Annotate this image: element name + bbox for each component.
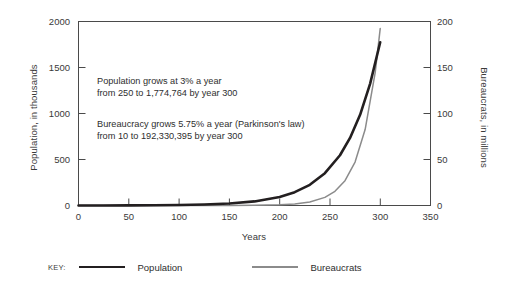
y-left-tick-500: 500 [30,154,70,165]
annotation-population-line1: Population grows at 3% a year [97,76,237,88]
x-tick-50: 50 [109,211,149,222]
x-tick-250: 250 [310,211,350,222]
x-tick-150: 150 [209,211,249,222]
chart-legend: KEY: Population Bureaucrats [48,256,468,278]
x-axis-title: Years [78,231,430,242]
y-right-ticks [424,22,431,206]
legend-label-bureaucrats: Bureaucrats [310,262,361,273]
y-right-tick-50: 50 [437,154,477,165]
y-right-tick-100: 100 [437,108,477,119]
y-right-tick-150: 150 [437,62,477,73]
x-tick-100: 100 [159,211,199,222]
legend-key-label: KEY: [48,263,65,272]
legend-label-population: Population [137,262,182,273]
x-tick-300: 300 [360,211,400,222]
legend-swatch-population-icon [79,266,125,269]
series-line-bureaucrats [79,29,381,206]
annotation-population-line2: from 250 to 1,774,764 by year 300 [97,88,237,100]
annotation-bureaucracy: Bureaucracy grows 5.75% a year (Parkinso… [97,119,305,142]
legend-entry-population: Population [79,262,182,273]
chart-plot-area [0,0,505,289]
y-right-tick-200: 200 [437,16,477,27]
chart-figure: Population, in thousands Bureaucrats, in… [0,0,505,289]
x-tick-350: 350 [411,211,451,222]
y-left-tick-1500: 1500 [30,62,70,73]
annotation-population: Population grows at 3% a year from 250 t… [97,76,237,99]
legend-entry-bureaucrats: Bureaucrats [252,262,361,273]
x-tick-0: 0 [59,211,99,222]
y-left-tick-0: 0 [30,200,70,211]
y-axis-right-title: Bureaucrats, in millions [479,38,490,198]
y-left-ticks [79,22,86,206]
annotation-bureaucracy-line2: from 10 to 192,330,395 by year 300 [97,131,305,143]
y-left-tick-2000: 2000 [30,16,70,27]
annotation-bureaucracy-line1: Bureaucracy grows 5.75% a year (Parkinso… [97,119,305,131]
x-tick-200: 200 [260,211,300,222]
legend-swatch-bureaucrats-icon [252,266,298,268]
y-right-tick-0: 0 [437,200,477,211]
y-left-tick-1000: 1000 [30,108,70,119]
